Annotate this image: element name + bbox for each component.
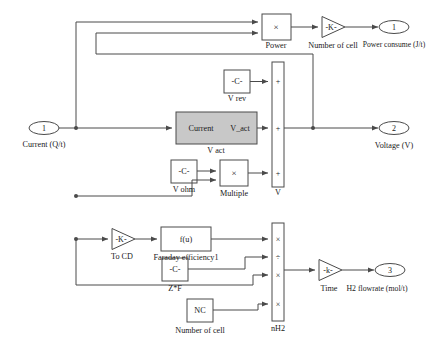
diagram-canvas: × Power -K- Number of cell 1 Power consu… xyxy=(0,0,438,345)
junction-current-multiple xyxy=(74,194,78,198)
time-gain-label: Time xyxy=(321,285,338,293)
v-ohm-label: V ohm xyxy=(173,186,195,194)
nc-symbol: NC xyxy=(194,306,205,315)
junction-current-main xyxy=(74,126,78,130)
to-cd-symbol: -K- xyxy=(115,235,126,244)
junction-voltage-tap xyxy=(311,126,315,130)
nh2-label: nH2 xyxy=(271,325,285,333)
nh2-sign-4: × xyxy=(276,300,281,309)
outport-2-label: Voltage (V) xyxy=(375,142,413,150)
v-sum-label: V xyxy=(275,189,281,197)
v-sum-sign-2: + xyxy=(276,124,281,133)
outport-1-label: Power consume (J/t) xyxy=(363,41,425,49)
nh2-sign-3: × xyxy=(276,271,281,280)
v-rev-symbol: -C- xyxy=(232,77,243,86)
v-rev-label: V rev xyxy=(228,95,246,103)
v-sum-sign-1: + xyxy=(276,77,281,86)
nc-label: Number of cell xyxy=(175,327,225,335)
zf-symbol: -C- xyxy=(170,265,181,274)
v-act-output-label: V_act xyxy=(230,124,250,133)
power-product-symbol: × xyxy=(273,22,278,32)
faraday-label: Faraday efficiency1 xyxy=(153,254,218,262)
number-of-cell-gain-label: Number of cell xyxy=(308,42,358,50)
multiple-label: Multiple xyxy=(220,190,248,198)
inport-1-number: 1 xyxy=(42,124,46,133)
inport-1-label: Current (Q/t) xyxy=(23,141,66,149)
v-act-input-label: Current xyxy=(188,124,213,133)
v-ohm-symbol: -C- xyxy=(179,167,190,176)
number-of-cell-gain-symbol: -K- xyxy=(325,23,336,32)
v-sum-sign-3: + xyxy=(276,169,281,178)
power-block-label: Power xyxy=(266,42,287,50)
outport-3-label: H2 flowrate (mol/t) xyxy=(346,285,407,293)
v-act-block-label: V act xyxy=(207,147,224,155)
outport-1-number: 1 xyxy=(392,23,396,32)
zf-label: Z*F xyxy=(168,285,182,293)
multiple-symbol: × xyxy=(231,168,236,178)
to-cd-label: To CD xyxy=(111,253,133,261)
outport-3-number: 3 xyxy=(388,266,392,275)
nh2-sign-2: ÷ xyxy=(276,253,280,262)
faraday-symbol: f(u) xyxy=(180,235,192,244)
nh2-sign-1: × xyxy=(276,235,281,244)
time-gain-symbol: -k- xyxy=(323,266,332,275)
outport-2-number: 2 xyxy=(392,124,396,133)
wire-nc-to-nh2 xyxy=(213,304,268,310)
diagram-svg xyxy=(0,0,438,345)
